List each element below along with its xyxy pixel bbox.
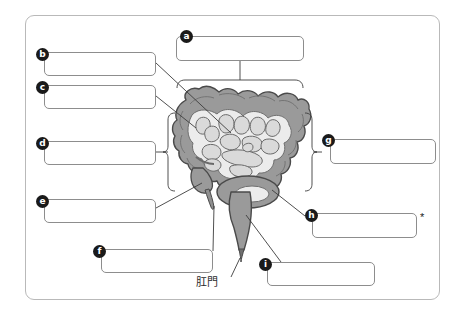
marker-e: e: [36, 195, 49, 208]
marker-c: c: [36, 81, 49, 94]
marker-i: i: [259, 258, 272, 271]
marker-g: g: [322, 134, 335, 147]
leader-lines: [0, 0, 465, 324]
marker-a: a: [180, 30, 193, 43]
leader-c: [156, 96, 196, 128]
marker-b: b: [36, 48, 49, 61]
asterisk-marker: *: [420, 212, 424, 223]
leader-i: [246, 215, 281, 262]
bracket-a: [177, 80, 303, 88]
leader-b: [156, 63, 231, 133]
label-anus: 肛門: [196, 277, 218, 289]
leader-h: [272, 190, 305, 216]
leader-anus: [231, 258, 240, 277]
marker-d: d: [36, 137, 49, 150]
marker-h: h: [305, 209, 318, 222]
marker-f: f: [93, 245, 106, 258]
bracket-g: [305, 113, 317, 191]
leader-f: [213, 206, 214, 251]
leader-e: [156, 183, 202, 208]
worksheet-canvas: a b c d e f g h * i 肛門: [0, 0, 465, 324]
bracket-d: [163, 113, 175, 191]
